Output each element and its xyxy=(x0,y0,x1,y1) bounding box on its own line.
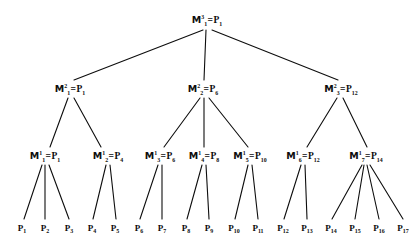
node-p-subscript: 1 xyxy=(219,21,222,27)
tree-edge xyxy=(305,165,307,219)
leaf-p-subscript: 4 xyxy=(93,228,96,234)
tree-edge xyxy=(209,98,248,147)
tree-leaf-p17: P17 xyxy=(397,224,408,233)
leaf-p-subscript: 3 xyxy=(70,228,73,234)
leaf-p-subscript: 11 xyxy=(258,228,264,234)
tree-edge xyxy=(367,165,379,219)
tree-edge xyxy=(235,165,248,219)
tree-leaf-p1: P1 xyxy=(18,224,26,233)
leaf-p-subscript: 17 xyxy=(403,228,409,234)
node-p-subscript: 6 xyxy=(172,157,175,163)
tree-leaf-p13: P13 xyxy=(301,224,312,233)
node-m-superscript: 1 xyxy=(243,150,246,156)
tree-node-level1-m5-1: M15=P10 xyxy=(233,151,266,162)
node-p-subscript: 12 xyxy=(314,157,320,163)
tree-edge xyxy=(74,98,101,147)
tree-leaf-p14: P14 xyxy=(325,224,336,233)
node-m-superscript: 1 xyxy=(359,150,362,156)
tree-edge xyxy=(24,165,42,219)
tree-node-level1-m1-1: M11=P1 xyxy=(30,151,61,162)
tree-edge xyxy=(284,165,301,219)
leaf-p-subscript: 9 xyxy=(210,228,213,234)
tree-edge xyxy=(212,30,338,80)
tree-leaf-p7: P7 xyxy=(158,224,166,233)
tree-edge xyxy=(332,165,362,219)
tree-edge xyxy=(370,165,403,219)
node-m-superscript: 1 xyxy=(102,150,105,156)
leaf-p-subscript: 6 xyxy=(140,228,143,234)
tree-leaf-p6: P6 xyxy=(135,224,143,233)
tree-edge xyxy=(204,30,206,80)
tree-leaf-p10: P10 xyxy=(228,224,239,233)
node-m-superscript: 1 xyxy=(39,150,42,156)
tree-edge xyxy=(355,165,364,219)
node-p-subscript: 10 xyxy=(261,157,267,163)
tree-edge xyxy=(252,165,258,219)
tree-edge xyxy=(140,165,158,219)
tree-edge xyxy=(307,98,337,147)
tree-edge xyxy=(164,98,200,147)
node-m-superscript: 2 xyxy=(64,83,67,89)
tree-leaf-p9: P9 xyxy=(205,224,213,233)
leaf-p-subscript: 16 xyxy=(379,228,385,234)
leaf-p-subscript: 8 xyxy=(187,228,190,234)
tree-edge xyxy=(49,165,69,219)
leaf-p-subscript: 13 xyxy=(307,228,313,234)
tree-leaf-p4: P4 xyxy=(88,224,96,233)
tree-node-level2-m3-2: M23=P12 xyxy=(324,84,357,95)
leaf-p-subscript: 5 xyxy=(116,228,119,234)
leaf-p-subscript: 12 xyxy=(283,228,289,234)
node-p-subscript: 6 xyxy=(215,90,218,96)
tree-node-level2-m2-2: M22=P6 xyxy=(188,84,219,95)
tree-leaf-p8: P8 xyxy=(182,224,190,233)
leaf-p-subscript: 1 xyxy=(23,228,26,234)
leaf-p-subscript: 2 xyxy=(46,228,49,234)
node-p-subscript: 1 xyxy=(82,90,85,96)
tree-edge xyxy=(110,165,116,219)
tree-leaf-p16: P16 xyxy=(373,224,384,233)
tree-edges-layer xyxy=(0,0,418,245)
tree-edge xyxy=(50,98,68,147)
node-m-superscript: 2 xyxy=(334,83,337,89)
leaf-p-subscript: 10 xyxy=(234,228,240,234)
tree-leaf-p5: P5 xyxy=(111,224,119,233)
node-p-subscript: 8 xyxy=(216,157,219,163)
tree-node-level1-m2-1: M12=P4 xyxy=(93,151,124,162)
tree-leaf-p11: P11 xyxy=(252,224,263,233)
tree-node-level2-m1-2: M21=P1 xyxy=(55,84,86,95)
tree-node-level1-m7-1: M17=P14 xyxy=(349,151,382,162)
tree-leaf-p3: P3 xyxy=(65,224,73,233)
tree-leaf-p15: P15 xyxy=(349,224,360,233)
tree-node-root-m1-3: M31=P1 xyxy=(192,15,223,26)
tree-edge xyxy=(74,30,203,80)
tree-node-level1-m3-1: M13=P6 xyxy=(145,151,176,162)
leaf-p-subscript: 14 xyxy=(331,228,337,234)
node-m-superscript: 1 xyxy=(154,150,157,156)
tree-edge xyxy=(206,165,209,219)
tree-leaf-p2: P2 xyxy=(41,224,49,233)
leaf-p-subscript: 7 xyxy=(163,228,166,234)
tree-node-level1-m4-1: M14=P8 xyxy=(189,151,220,162)
tree-edge xyxy=(93,165,106,219)
node-m-superscript: 3 xyxy=(201,14,204,20)
tree-diagram-figure: M31=P1M21=P1M22=P6M23=P12M11=P1M12=P4M13… xyxy=(0,0,418,245)
node-m-superscript: 1 xyxy=(198,150,201,156)
node-p-subscript: 12 xyxy=(352,90,358,96)
node-p-subscript: 4 xyxy=(120,157,123,163)
node-p-subscript: 14 xyxy=(377,157,383,163)
node-m-superscript: 2 xyxy=(197,83,200,89)
tree-edge xyxy=(343,98,367,147)
node-p-subscript: 1 xyxy=(57,157,60,163)
tree-leaf-p12: P12 xyxy=(277,224,288,233)
tree-node-level1-m6-1: M16=P12 xyxy=(286,151,319,162)
leaf-p-subscript: 15 xyxy=(355,228,361,234)
node-m-superscript: 1 xyxy=(296,150,299,156)
tree-edge xyxy=(187,165,202,219)
